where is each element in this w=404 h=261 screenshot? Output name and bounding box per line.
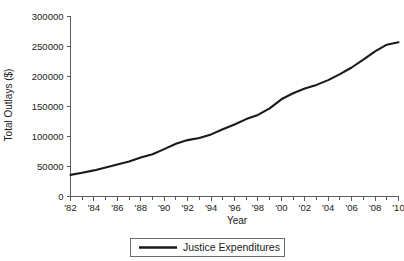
x-axis-tick-labels: '82'84'86'88'90'92'94'96'98'00'02'04'06'… bbox=[64, 202, 404, 213]
line-chart: 050000100000150000200000250000300000 '82… bbox=[0, 0, 404, 261]
y-axis-tick-labels: 050000100000150000200000250000300000 bbox=[32, 11, 64, 202]
x-axis-major-ticks bbox=[71, 197, 399, 201]
x-tick-label: '00 bbox=[275, 202, 287, 213]
x-tick-label: '84 bbox=[88, 202, 100, 213]
x-tick-label: '88 bbox=[135, 202, 147, 213]
y-tick-label: 200000 bbox=[32, 71, 64, 82]
series-line-justice-expenditures bbox=[71, 42, 399, 175]
x-tick-label: '82 bbox=[64, 202, 76, 213]
chart-container: 050000100000150000200000250000300000 '82… bbox=[0, 0, 404, 261]
x-axis-title: Year bbox=[227, 215, 248, 226]
x-tick-label: '94 bbox=[205, 202, 217, 213]
y-tick-label: 0 bbox=[58, 191, 63, 202]
x-tick-label: '10 bbox=[392, 202, 404, 213]
x-tick-label: '02 bbox=[299, 202, 311, 213]
x-axis: '82'84'86'88'90'92'94'96'98'00'02'04'06'… bbox=[64, 197, 404, 213]
y-tick-label: 250000 bbox=[32, 41, 64, 52]
x-tick-label: '86 bbox=[111, 202, 123, 213]
x-tick-label: '08 bbox=[369, 202, 381, 213]
y-axis-title: Total Outlays ($) bbox=[3, 69, 14, 142]
x-tick-label: '04 bbox=[322, 202, 334, 213]
y-tick-label: 300000 bbox=[32, 11, 64, 22]
x-tick-label: '92 bbox=[181, 202, 193, 213]
legend-label-justice-expenditures: Justice Expenditures bbox=[183, 241, 280, 253]
x-tick-label: '90 bbox=[158, 202, 170, 213]
y-tick-label: 150000 bbox=[32, 101, 64, 112]
y-tick-label: 100000 bbox=[32, 131, 64, 142]
x-tick-label: '96 bbox=[228, 202, 240, 213]
y-axis-ticks bbox=[67, 17, 71, 197]
y-axis: 050000100000150000200000250000300000 bbox=[32, 11, 71, 202]
y-tick-label: 50000 bbox=[37, 161, 63, 172]
x-tick-label: '98 bbox=[252, 202, 264, 213]
data-series-group bbox=[71, 42, 399, 175]
chart-legend: Justice Expenditures bbox=[131, 239, 285, 257]
x-tick-label: '06 bbox=[345, 202, 357, 213]
